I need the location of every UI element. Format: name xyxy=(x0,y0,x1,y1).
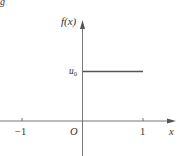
origin-label: O xyxy=(70,126,78,137)
level-label-sub: 0 xyxy=(74,70,77,77)
x-axis xyxy=(0,118,176,124)
y-axis-arrow-icon xyxy=(80,20,85,29)
x-axis-label: x xyxy=(168,126,174,137)
x-tick-label-minus-1: −1 xyxy=(15,126,26,137)
y-axis xyxy=(80,20,85,156)
x-tick-label-1: 1 xyxy=(140,126,145,137)
x-axis-arrow-icon xyxy=(167,119,176,124)
corner-fragment: g xyxy=(0,0,5,7)
y-axis-label: f(x) xyxy=(61,15,77,28)
step-function-figure: g f(x) u0 −1 O 1 x xyxy=(0,0,182,156)
level-label: u0 xyxy=(69,66,77,77)
